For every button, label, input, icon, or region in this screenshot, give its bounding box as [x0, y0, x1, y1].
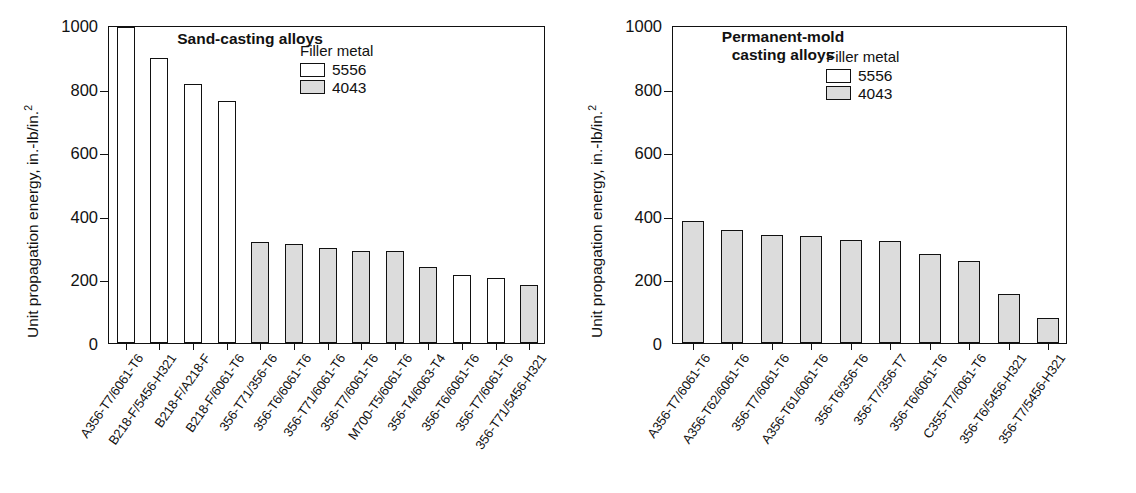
y-axis-tick: [664, 91, 673, 92]
bar: [487, 278, 505, 343]
y-axis-tick: [100, 91, 109, 92]
x-axis-tick: [693, 343, 694, 350]
legend-entry-label: 5556: [858, 68, 892, 84]
x-axis-tick: [930, 343, 931, 350]
y-axis-tick: [664, 281, 673, 282]
y-axis-tick-label: 200: [598, 272, 662, 289]
x-axis-tick: [1009, 343, 1010, 350]
legend-entry: 4043: [300, 80, 373, 96]
bar: [761, 235, 783, 343]
legend-title: Filler metal: [826, 48, 899, 65]
x-axis-tick: [294, 343, 295, 350]
x-axis-tick: [969, 343, 970, 350]
bar: [520, 285, 538, 344]
bar: [352, 251, 370, 343]
x-axis-tick: [890, 343, 891, 350]
y-axis-tick-label: 0: [598, 336, 662, 353]
bar: [419, 267, 437, 343]
chart-panel-permanent-mold: Unit propagation energy, in.-lb/in.20200…: [568, 0, 1136, 493]
x-axis-tick: [772, 343, 773, 350]
bar: [251, 242, 269, 343]
y-axis-tick: [100, 218, 109, 219]
x-axis-tick: [811, 343, 812, 350]
bar: [721, 230, 743, 343]
y-axis-label-exponent: 2: [586, 105, 598, 111]
bar: [998, 294, 1020, 343]
legend-entry-label: 5556: [332, 62, 366, 78]
x-axis-tick: [260, 343, 261, 350]
bar: [840, 240, 862, 343]
y-axis-tick-label: 200: [34, 272, 98, 289]
x-axis-tick: [193, 343, 194, 350]
legend-swatch: [826, 69, 851, 83]
y-axis-tick-label: 400: [34, 209, 98, 226]
legend: Filler metal55564043: [300, 42, 373, 97]
y-axis-tick: [664, 154, 673, 155]
x-axis-tick: [361, 343, 362, 350]
legend-entry-label: 4043: [332, 80, 366, 96]
bar: [919, 254, 941, 343]
y-axis-tick-label: 600: [598, 145, 662, 162]
bar: [319, 248, 337, 343]
legend-entry: 5556: [300, 62, 373, 78]
legend-title: Filler metal: [300, 42, 373, 59]
y-axis-tick-label: 0: [34, 336, 98, 353]
y-axis-tick-label: 1000: [598, 18, 662, 35]
legend-entry: 5556: [826, 68, 899, 84]
x-axis-tick: [732, 343, 733, 350]
x-axis-tick: [462, 343, 463, 350]
legend: Filler metal55564043: [826, 48, 899, 103]
bar: [285, 244, 303, 343]
bar: [184, 84, 202, 343]
y-axis-tick: [664, 218, 673, 219]
y-axis-tick: [100, 154, 109, 155]
bar: [117, 27, 135, 343]
y-axis-tick-label: 1000: [34, 18, 98, 35]
y-axis-tick-label: 800: [34, 82, 98, 99]
x-axis-tick: [496, 343, 497, 350]
bar: [1037, 318, 1059, 343]
x-axis-tick: [1048, 343, 1049, 350]
legend-swatch: [300, 63, 325, 77]
x-axis-tick: [328, 343, 329, 350]
legend-swatch: [300, 80, 325, 94]
x-axis-tick: [428, 343, 429, 350]
y-axis-label-exponent: 2: [22, 105, 34, 111]
bar: [682, 221, 704, 343]
y-axis-tick-label: 600: [34, 145, 98, 162]
y-axis-tick-label: 800: [598, 82, 662, 99]
bar: [386, 251, 404, 343]
legend-entry: 4043: [826, 86, 899, 102]
x-axis-tick: [851, 343, 852, 350]
bar: [879, 241, 901, 343]
x-axis-tick: [159, 343, 160, 350]
bar: [453, 275, 471, 343]
legend-entry-label: 4043: [858, 86, 892, 102]
x-axis-tick: [227, 343, 228, 350]
bar: [958, 261, 980, 343]
bar: [800, 236, 822, 343]
chart-panel-sand-casting: Unit propagation energy, in.-lb/in.20200…: [0, 0, 568, 493]
bar: [150, 58, 168, 343]
y-axis-tick: [100, 281, 109, 282]
y-axis-tick-label: 400: [598, 209, 662, 226]
bar: [218, 101, 236, 343]
x-axis-tick: [529, 343, 530, 350]
legend-swatch: [826, 86, 851, 100]
figure-root: Unit propagation energy, in.-lb/in.20200…: [0, 0, 1136, 493]
x-axis-tick: [126, 343, 127, 350]
x-axis-tick: [395, 343, 396, 350]
